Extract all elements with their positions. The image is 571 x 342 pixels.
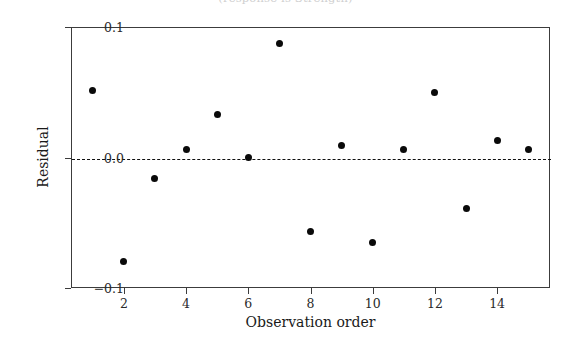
zero-reference-line <box>72 159 551 160</box>
y-axis-tick-label: −0.1 <box>64 281 124 296</box>
data-point <box>494 137 501 144</box>
x-axis-tick <box>311 288 312 294</box>
x-axis-tick-label: 4 <box>182 296 190 311</box>
data-point <box>369 239 376 246</box>
x-axis-tick-label: 6 <box>244 296 252 311</box>
data-point <box>245 154 252 161</box>
x-axis-tick <box>124 288 125 294</box>
x-axis-tick <box>497 288 498 294</box>
data-point <box>463 205 470 212</box>
x-axis-tick <box>373 288 374 294</box>
data-point <box>214 111 221 118</box>
plot-area <box>71 27 550 288</box>
x-axis-title: Observation order <box>71 314 550 330</box>
x-axis-tick-label: 10 <box>365 296 381 311</box>
x-axis-tick <box>435 288 436 294</box>
y-axis-tick-label: 0.1 <box>64 20 124 35</box>
x-axis-tick-label: 14 <box>489 296 505 311</box>
y-axis-title: Residual <box>35 126 51 187</box>
x-axis-tick-label: 12 <box>427 296 443 311</box>
x-axis-tick <box>186 288 187 294</box>
x-axis-tick-label: 2 <box>120 296 128 311</box>
y-axis-tick-label: 0.0 <box>64 150 124 165</box>
x-axis-tick-label: 8 <box>307 296 315 311</box>
x-axis-tick <box>248 288 249 294</box>
residual-order-plot-screenshot: (response is Strength) 2468101214 0.10.0… <box>0 0 571 342</box>
data-point <box>183 146 190 153</box>
cut-off-chart-title: (response is Strength) <box>0 0 571 5</box>
data-point <box>525 146 532 153</box>
